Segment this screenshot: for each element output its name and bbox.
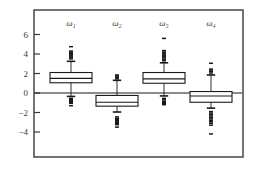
group-label: ω₃ <box>159 18 168 28</box>
box <box>143 73 185 84</box>
boxplot-figure: 6420−2−4ω₁ω₂ω₃ω₄ <box>0 0 254 172</box>
y-tick-label: 0 <box>24 88 29 98</box>
y-tick-label: −2 <box>18 108 28 118</box>
y-tick-label: 4 <box>24 49 29 59</box>
y-tick-label: −4 <box>18 127 28 137</box>
y-tick-label: 2 <box>24 69 29 79</box>
box <box>50 73 92 83</box>
y-tick-label: 6 <box>24 30 29 40</box>
box <box>190 92 232 103</box>
box <box>96 95 138 106</box>
group-label: ω₄ <box>206 18 215 28</box>
group-label: ω₂ <box>112 18 121 28</box>
plot-frame <box>34 10 243 157</box>
group-label: ω₁ <box>66 18 75 28</box>
boxplot-svg: 6420−2−4ω₁ω₂ω₃ω₄ <box>0 0 254 172</box>
